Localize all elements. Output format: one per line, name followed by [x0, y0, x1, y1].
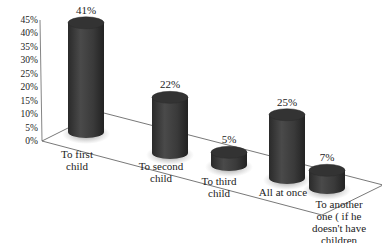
- value-label: 5%: [222, 133, 237, 145]
- bar-cylinder: 7%: [303, 151, 351, 200]
- y-tick-label: 15%: [21, 96, 39, 106]
- y-tick-label: 40%: [21, 28, 39, 38]
- bar-cylinder: 5%: [205, 133, 253, 177]
- category-label: To anotherone ( if hedoesn't havechildre…: [312, 198, 366, 243]
- y-tick-label: 25%: [21, 69, 39, 79]
- value-label: 22%: [160, 78, 180, 90]
- y-tick-label: 45%: [21, 15, 39, 25]
- y-tick-label: 35%: [21, 42, 39, 52]
- category-label: To thirdchild: [202, 175, 237, 199]
- bar-cylinder: 22%: [146, 78, 194, 165]
- y-tick-label: 30%: [21, 55, 39, 65]
- y-tick-label: 5%: [25, 123, 38, 133]
- bar-cylinder: 41%: [62, 4, 110, 144]
- category-label: To secondchild: [139, 160, 184, 184]
- category-label: All at once: [259, 186, 307, 198]
- value-label: 25%: [277, 96, 297, 108]
- cylinder-bar-chart: 0%5%10%15%20%25%30%35%40%45% 41%22%5%25%…: [0, 0, 382, 243]
- value-label: 7%: [320, 151, 335, 163]
- bar-cylinder: 25%: [263, 96, 311, 190]
- y-tick-label: 0%: [25, 136, 38, 146]
- value-label: 41%: [76, 4, 96, 16]
- y-tick-label: 20%: [21, 82, 39, 92]
- y-axis: [40, 20, 42, 141]
- category-label: To firstchild: [61, 148, 93, 172]
- bars: 41%22%5%25%7%: [62, 4, 351, 200]
- y-tick-label: 10%: [21, 109, 39, 119]
- y-axis-ticks: 0%5%10%15%20%25%30%35%40%45%: [21, 15, 39, 146]
